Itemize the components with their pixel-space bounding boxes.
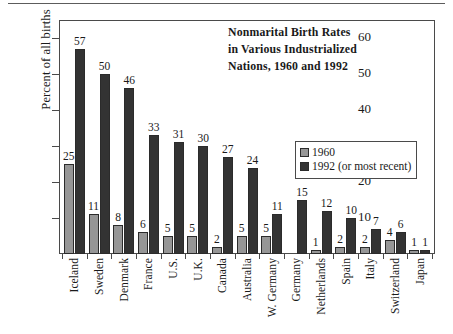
- bar-group: 633: [136, 20, 161, 254]
- bar-value-label: 1: [313, 237, 319, 249]
- x-axis-label: Japan: [414, 258, 426, 285]
- x-axis-label-cell: Italy: [358, 258, 383, 334]
- bar-value-label: 11: [88, 201, 99, 213]
- bar-value-label: 15: [296, 187, 308, 199]
- bar-value-label: 1: [411, 237, 417, 249]
- bar-group: 846: [111, 20, 136, 254]
- y-axis-tick-mark: [52, 146, 59, 147]
- x-axis-label-cell: Spain: [333, 258, 358, 334]
- bar: 10: [346, 218, 356, 254]
- chart-title-line: Nonmarital Birth Rates: [228, 24, 428, 41]
- x-axis-label: Switzerland: [389, 258, 401, 314]
- bar: 8: [113, 225, 123, 254]
- bar: 11: [272, 214, 282, 254]
- chart-title: Nonmarital Birth Ratesin Various Industr…: [228, 24, 428, 74]
- bar: 46: [124, 88, 134, 254]
- bar: 2: [335, 247, 345, 254]
- bar-value-label: 50: [99, 61, 111, 73]
- bar-value-label: 24: [247, 155, 259, 167]
- bar-value-label: 1: [422, 237, 428, 249]
- chart-legend: 19601992 (or most recent): [295, 141, 417, 179]
- y-axis-tick-mark: [52, 74, 59, 75]
- x-axis-label: Germany: [290, 258, 302, 302]
- x-axis-label: Iceland: [68, 258, 80, 293]
- bar-value-label: 2: [337, 234, 343, 246]
- legend-entry: 1960: [300, 145, 411, 159]
- bar: 27: [223, 157, 233, 254]
- bar: 24: [248, 168, 258, 254]
- legend-label: 1960: [312, 145, 335, 159]
- chart-title-line: in Various Industrialized: [228, 41, 428, 58]
- bar-value-label: 5: [165, 223, 171, 235]
- bar-group: 531: [161, 20, 186, 254]
- bar-value-label: 25: [63, 151, 75, 163]
- bar: 12: [322, 211, 332, 254]
- bar-value-label: 31: [173, 129, 185, 141]
- bar: 25: [64, 164, 74, 254]
- x-axis-label-cell: U.K.: [185, 258, 210, 334]
- bar: 33: [149, 135, 159, 254]
- x-axis-label: Sweden: [93, 258, 105, 295]
- bar-value-label: 27: [222, 144, 234, 156]
- x-axis-label: U.K.: [192, 258, 204, 281]
- bar: 5: [187, 236, 197, 254]
- x-axis-label: Netherlands: [315, 258, 327, 315]
- x-axis-label-cell: Germany: [284, 258, 309, 334]
- bar: 5: [261, 236, 271, 254]
- bar-value-label: 5: [263, 223, 269, 235]
- x-axis-label-cell: Australia: [235, 258, 260, 334]
- x-axis-label: Italy: [364, 258, 376, 280]
- bar-value-label: 6: [140, 219, 146, 231]
- x-axis-label-cell: Iceland: [62, 258, 87, 334]
- x-axis-label: Canada: [216, 258, 228, 293]
- bar: 5: [163, 236, 173, 254]
- bar-value-label: 6: [398, 219, 404, 231]
- top-horizontal-rule: [8, 3, 445, 4]
- bar-group: 530: [185, 20, 210, 254]
- y-axis-tick-mark: [52, 218, 59, 219]
- x-axis-label-cell: Japan: [407, 258, 432, 334]
- bar: 7: [371, 229, 381, 254]
- bar: 2: [212, 247, 222, 254]
- x-axis-label: France: [142, 258, 154, 290]
- bar: 6: [138, 232, 148, 254]
- bar-value-label: 5: [189, 223, 195, 235]
- bar-value-label: 46: [123, 75, 135, 87]
- bar-value-label: 5: [239, 223, 245, 235]
- bar-value-label: 2: [362, 234, 368, 246]
- x-axis-label-cell: France: [136, 258, 161, 334]
- bar-value-label: 8: [115, 212, 121, 224]
- x-axis-label-cell: U.S.: [161, 258, 186, 334]
- x-axis-label: Australia: [241, 258, 253, 301]
- x-axis-label: U.S.: [167, 258, 179, 279]
- bar-value-label: 30: [197, 133, 209, 145]
- x-axis-labels: IcelandSwedenDenmarkFranceU.S.U.K.Canada…: [62, 258, 432, 334]
- bar: 15: [297, 200, 307, 254]
- x-axis-label-cell: Sweden: [87, 258, 112, 334]
- bar-value-label: 11: [272, 201, 283, 213]
- bar-group: 1150: [87, 20, 112, 254]
- x-axis-label-cell: W. Germany: [259, 258, 284, 334]
- bar: 57: [75, 49, 85, 254]
- bar-value-label: 57: [74, 36, 86, 48]
- x-axis-label: Spain: [340, 258, 352, 285]
- x-axis-label: W. Germany: [266, 258, 278, 317]
- bar-value-label: 12: [321, 198, 333, 210]
- legend-entry: 1992 (or most recent): [300, 159, 411, 173]
- x-axis-tick-mark: [432, 254, 433, 259]
- legend-swatch: [300, 148, 309, 157]
- bar-value-label: 4: [387, 227, 393, 239]
- bar: 5: [237, 236, 247, 254]
- x-axis-label-cell: Netherlands: [309, 258, 334, 334]
- bar: 2: [360, 247, 370, 254]
- bar: 30: [198, 146, 208, 254]
- chart-title-line: Nations, 1960 and 1992: [228, 58, 428, 75]
- x-axis-label-cell: Denmark: [111, 258, 136, 334]
- bar: 50: [100, 74, 110, 254]
- bar-value-label: 7: [373, 216, 379, 228]
- y-axis-title: Percent of all births: [39, 0, 54, 140]
- x-axis-label-cell: Switzerland: [383, 258, 408, 334]
- bar-group: 2557: [62, 20, 87, 254]
- bar-value-label: 33: [148, 122, 160, 134]
- legend-swatch: [300, 162, 309, 171]
